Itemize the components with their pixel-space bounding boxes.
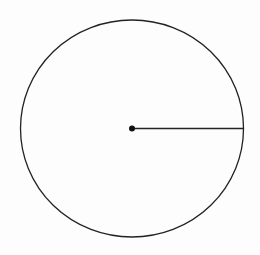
center-point	[129, 126, 135, 132]
circle-diagram	[0, 0, 260, 255]
